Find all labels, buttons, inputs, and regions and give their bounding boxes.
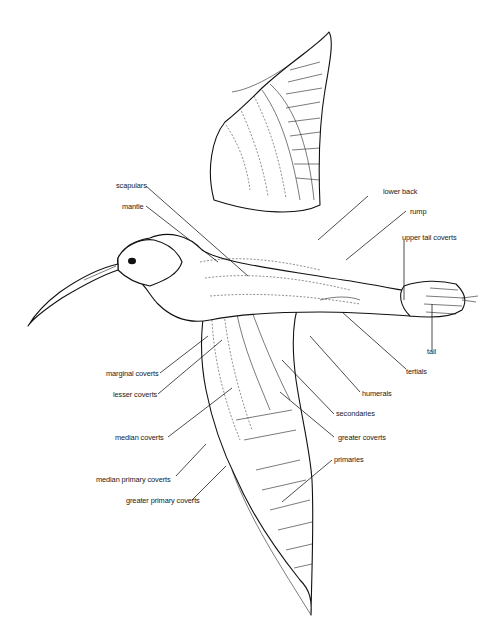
label-upper-tail-coverts: upper tail coverts [402, 233, 456, 242]
label-primaries: primaries [334, 455, 364, 464]
label-median-coverts: median coverts [115, 433, 164, 442]
label-humerals: humerals [362, 389, 392, 398]
bird-anatomy-diagram: scapulars mantle lower back rump upper t… [0, 0, 502, 637]
label-greater-coverts: greater coverts [338, 433, 386, 442]
label-mantle: mantle [122, 202, 144, 211]
head [28, 240, 182, 326]
tail [401, 281, 478, 317]
label-marginal-coverts: marginal coverts [106, 369, 159, 378]
bird-illustration [0, 0, 502, 637]
label-lower-back: lower back [383, 187, 417, 196]
lower-wing [202, 298, 313, 615]
upper-wing [210, 32, 331, 212]
eye-icon [128, 258, 136, 265]
label-greater-primary-coverts: greater primary coverts [126, 496, 200, 505]
label-tail: tail [427, 347, 436, 356]
label-scapulars: scapulars [116, 181, 147, 190]
label-median-primary-coverts: median primary coverts [96, 475, 171, 484]
label-lesser-coverts: lesser coverts [113, 390, 157, 399]
label-secondaries: secondaries [336, 409, 375, 418]
label-tertials: tertials [406, 367, 427, 376]
label-rump: rump [410, 207, 426, 216]
